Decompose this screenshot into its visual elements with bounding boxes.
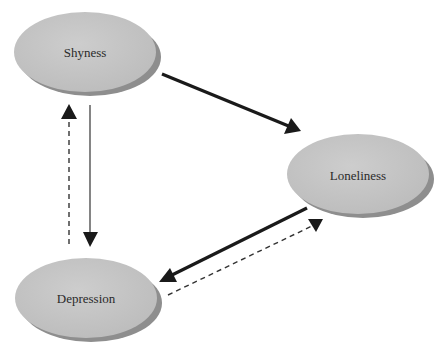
edge-shyness-to-depression [83,105,98,247]
relationship-diagram: Shyness Loneliness Depression [0,0,442,352]
arrowhead-icon [61,104,77,119]
edge-shyness-to-loneliness [162,74,301,134]
node-label-loneliness: Loneliness [330,168,386,183]
arrowhead-icon [308,219,323,232]
node-loneliness: Loneliness [287,134,434,218]
node-label-depression: Depression [57,291,116,306]
arrowhead-icon [83,232,98,247]
node-depression: Depression [15,258,162,342]
node-label-shyness: Shyness [64,45,107,60]
edge-line [162,74,291,127]
edge-line [170,208,307,276]
edge-depression-to-shyness [61,104,77,244]
node-shyness: Shyness [14,12,161,96]
edge-depression-to-loneliness [168,219,323,295]
edge-line [168,226,312,295]
edge-loneliness-to-depression [159,208,307,282]
